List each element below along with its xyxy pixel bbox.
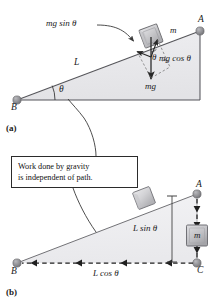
panel-b-label-l-sin-theta: L sin θ <box>133 224 157 233</box>
physics-figure: mg sin θ mg cos θ mg m L θ θ B A (a) Wor… <box>0 0 222 302</box>
panel-b-label-vertex-b: B <box>11 267 17 277</box>
panel-b-label-l-cos-theta: L cos θ <box>93 269 119 278</box>
panel-b-label-vertex-a: A <box>196 180 202 190</box>
panel-b-incline <box>17 194 197 263</box>
panel-b-label-vertex-c: C <box>197 266 203 276</box>
panel-b-incline-block <box>132 186 155 209</box>
panel-b-tag: (b) <box>6 288 17 297</box>
panel-b-label-mass: m <box>194 231 201 240</box>
panel-b-graphics <box>0 0 222 302</box>
